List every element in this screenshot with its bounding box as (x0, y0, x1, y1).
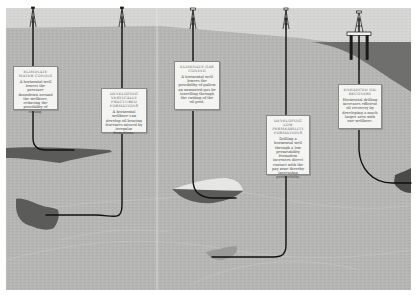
callout-gas-coning: Eliminate gas coning A horizontal well l… (174, 61, 220, 110)
callout-body: A horizontal wellbore can develop oil be… (105, 110, 143, 136)
callout-title: Developing low permeability formations (270, 119, 306, 136)
callout-enhanced-recovery: Enhanced oil recovery Horizontal drillin… (338, 84, 382, 129)
callout-body: A horizontal well lowers the pressure dr… (17, 80, 54, 114)
callout-title: Eliminate gas coning (178, 65, 216, 73)
callout-vertical-fractures: Developing vertically fractured formatio… (101, 88, 147, 133)
callout-body: A horizontal well lowers the possibility… (178, 75, 216, 105)
callout-body: Drilling a horizontal well through a low… (270, 137, 306, 180)
callout-low-permeability: Developing low permeability formations D… (266, 115, 310, 175)
callout-body: Horizontal drilling increases efficient … (342, 98, 378, 124)
callout-title: Enhanced oil recovery (342, 88, 378, 96)
horizontal-drilling-diagram: Eliminate water coning A horizontal well… (0, 0, 416, 295)
callout-water-coning: Eliminate water coning A horizontal well… (13, 66, 58, 110)
callout-title: Developing vertically fractured formatio… (105, 92, 143, 109)
callout-title: Eliminate water coning (17, 70, 54, 78)
cross-section-illustration (0, 0, 416, 295)
